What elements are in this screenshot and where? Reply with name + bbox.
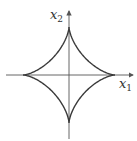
- x2-axis-label: x2: [50, 8, 63, 24]
- astroid-diagram: [0, 0, 137, 141]
- x1-axis-label: x1: [119, 77, 132, 93]
